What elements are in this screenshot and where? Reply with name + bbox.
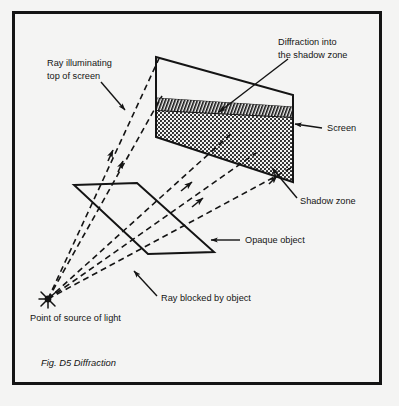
leader-screen bbox=[295, 124, 322, 128]
label-opaque-object: Opaque object bbox=[245, 235, 305, 245]
ray-top-of-screen bbox=[48, 59, 159, 300]
leader-ray-blocked bbox=[134, 271, 157, 296]
ray-arrow-3 bbox=[181, 182, 192, 191]
label-ray-illuminating-line2: top of screen bbox=[47, 71, 100, 81]
point-light-source bbox=[39, 292, 56, 308]
diffraction-diagram-canvas: Ray illuminating top of screen Diffracti… bbox=[0, 0, 399, 406]
screen-panel bbox=[156, 57, 293, 182]
figure-caption: Fig. D5 Diffraction bbox=[41, 357, 116, 368]
opaque-object-panel bbox=[74, 183, 214, 254]
label-screen: Screen bbox=[327, 123, 356, 133]
shadow-zone-region bbox=[156, 110, 293, 182]
label-diffraction-line1: Diffraction into bbox=[278, 37, 337, 47]
label-ray-illuminating-line1: Ray illuminating bbox=[47, 58, 112, 68]
label-point-source: Point of source of light bbox=[30, 313, 121, 323]
label-diffraction-line2: the shadow zone bbox=[278, 50, 347, 60]
figure-diffraction: Ray illuminating top of screen Diffracti… bbox=[0, 0, 399, 406]
leader-ray-illuminating bbox=[101, 82, 125, 110]
label-ray-blocked: Ray blocked by object bbox=[161, 293, 251, 303]
label-shadow-zone: Shadow zone bbox=[300, 196, 356, 206]
ray-arrow-4 bbox=[192, 198, 203, 207]
